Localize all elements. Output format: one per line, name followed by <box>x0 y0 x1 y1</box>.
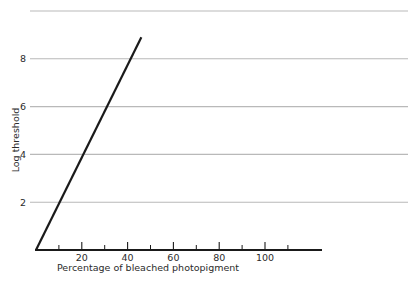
data-series <box>36 37 141 250</box>
series-line-0 <box>36 37 141 250</box>
chart-figure: 204060801002468 Percentage of bleached p… <box>0 0 418 282</box>
tick-marks <box>59 242 288 249</box>
gridlines <box>30 11 408 202</box>
x-axis-title: Percentage of bleached photopigment <box>57 262 239 273</box>
y-tick-label-2: 2 <box>20 197 26 208</box>
y-axis-title: Log threshold <box>10 108 21 173</box>
x-tick-label-100: 100 <box>256 252 274 263</box>
y-tick-label-8: 8 <box>20 53 26 64</box>
line-chart: 204060801002468 Percentage of bleached p… <box>0 0 418 282</box>
tick-labels: 204060801002468 <box>20 53 274 263</box>
